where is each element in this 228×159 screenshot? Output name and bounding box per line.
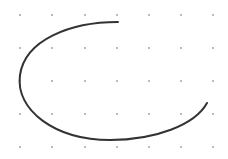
grid-dot	[51, 14, 53, 16]
grid-dot	[148, 146, 150, 148]
grid-dot	[84, 80, 86, 82]
drawing-canvas[interactable]	[0, 0, 228, 159]
grid-dot	[212, 14, 214, 16]
grid-dot	[116, 14, 118, 16]
grid-dot	[51, 113, 53, 115]
grid-dot	[51, 146, 53, 148]
grid-dot	[180, 80, 182, 82]
grid-dot	[116, 146, 118, 148]
grid-dot	[84, 14, 86, 16]
grid-dot	[212, 47, 214, 49]
dot-grid	[19, 14, 214, 148]
grid-dot	[180, 47, 182, 49]
grid-dot	[116, 80, 118, 82]
grid-dot	[148, 113, 150, 115]
grid-dot	[84, 113, 86, 115]
curved-arc-stroke[interactable]	[20, 22, 207, 140]
grid-dot	[212, 113, 214, 115]
grid-dot	[180, 113, 182, 115]
grid-dot	[51, 47, 53, 49]
grid-dot	[212, 80, 214, 82]
grid-dot	[19, 113, 21, 115]
grid-dot	[19, 47, 21, 49]
grid-dot	[84, 47, 86, 49]
grid-dot	[212, 146, 214, 148]
grid-dot	[148, 80, 150, 82]
grid-dot	[116, 47, 118, 49]
grid-dot	[84, 146, 86, 148]
grid-dot	[19, 14, 21, 16]
diagram-svg	[0, 0, 228, 159]
grid-dot	[148, 14, 150, 16]
grid-dot	[51, 80, 53, 82]
grid-dot	[19, 146, 21, 148]
grid-dot	[116, 113, 118, 115]
grid-dot	[180, 146, 182, 148]
grid-dot	[148, 47, 150, 49]
grid-dot	[180, 14, 182, 16]
